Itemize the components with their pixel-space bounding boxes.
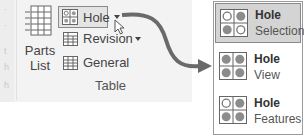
- menu-item-hole-features[interactable]: Hole Features: [214, 92, 302, 132]
- menu-item-hole-view[interactable]: Hole View: [214, 48, 302, 88]
- menu-item-title: Hole: [255, 8, 281, 22]
- menu-item-title: Hole: [254, 96, 280, 110]
- hole-features-icon: [219, 96, 247, 124]
- menu-item-subtitle: Features: [254, 112, 301, 126]
- menu-item-title: Hole: [254, 52, 280, 66]
- menu-item-hole-selection[interactable]: Hole Selection: [215, 3, 301, 43]
- menu-item-subtitle: Selection: [255, 24, 304, 38]
- hole-selection-icon: [220, 9, 248, 37]
- hole-view-icon: [219, 52, 247, 80]
- menu-item-subtitle: View: [254, 68, 280, 82]
- hole-table-dropdown-menu: Hole Selection Hole View Hole Features: [213, 1, 303, 135]
